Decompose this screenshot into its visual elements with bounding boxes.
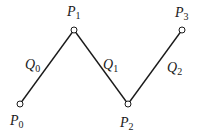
segment-q1: [74, 30, 128, 104]
point-p3: [179, 27, 185, 33]
point-p0: [17, 101, 23, 107]
segment-label-q2: Q2: [167, 60, 182, 77]
point-label-p2: P2: [119, 115, 134, 132]
point-label-p0: P0: [9, 113, 24, 130]
diagram-svg: P0P1P2P3Q0Q1Q2: [0, 0, 197, 134]
point-p2: [125, 101, 131, 107]
polyline-diagram: P0P1P2P3Q0Q1Q2: [0, 0, 197, 134]
point-label-p3: P3: [174, 5, 189, 22]
segments: [20, 30, 182, 104]
point-label-p1: P1: [66, 4, 81, 21]
segment-label-q0: Q0: [25, 57, 40, 74]
segment-label-q1: Q1: [103, 57, 118, 74]
labels: P0P1P2P3Q0Q1Q2: [9, 4, 189, 132]
point-p1: [71, 27, 77, 33]
